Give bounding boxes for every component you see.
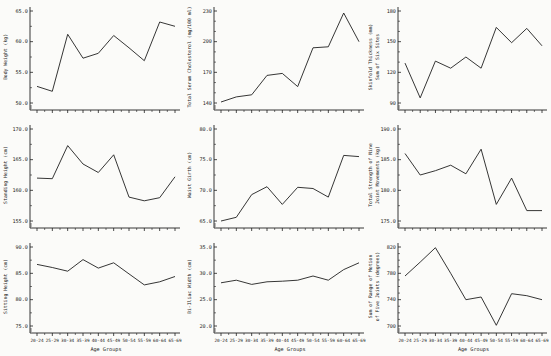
y-tick-label: 65.0 [200, 218, 213, 224]
y-tick-label: 80.0 [200, 126, 213, 132]
y-axis-title: Joint Movements (kg) [375, 146, 381, 204]
y-tick-label: 180.0 [380, 187, 396, 193]
x-tick-label: 40-44 [92, 338, 106, 343]
y-tick-label: 25.0 [200, 296, 213, 302]
y-tick-label: 185.0 [380, 156, 396, 162]
chart-grid-figure: 50.055.060.065.0Body Weight (kg) 1401702… [0, 0, 551, 356]
chart-sitting-height: 75.080.085.090.0Sitting Height (cm)20-24… [0, 236, 184, 356]
chart-canvas: 155.0160.0165.0170.0Standing Height (cm) [0, 118, 184, 236]
y-tick-label: 165.0 [12, 156, 28, 162]
x-tick-label: 20-24 [398, 338, 412, 343]
y-tick-label: 160.0 [12, 187, 28, 193]
y-tick-label: 170 [203, 69, 212, 75]
x-tick-label: 30-34 [245, 338, 259, 343]
y-tick-label: 20.0 [200, 323, 213, 329]
y-tick-label: 230 [203, 8, 212, 14]
x-tick-label: 35-39 [444, 338, 458, 343]
y-tick-label: 30.0 [200, 270, 213, 276]
x-tick-label: 55-59 [138, 338, 152, 343]
y-tick-label: 75.0 [16, 323, 29, 329]
x-tick-label: 65-69 [168, 338, 182, 343]
x-tick-label: 45-49 [107, 338, 121, 343]
y-tick-label: 700 [387, 323, 396, 329]
chart-canvas: 20.025.030.035.0Bi-Iliac Width (cm)20-24… [184, 236, 368, 356]
chart-canvas: 90120150180Skinfold Thickness (mm)Sum of… [368, 0, 551, 118]
x-tick-label: 45-49 [475, 338, 489, 343]
y-axis-title: Body Weight (kg) [3, 34, 9, 80]
y-tick-label: 75.0 [200, 156, 213, 162]
x-tick-label: 30-34 [61, 338, 75, 343]
y-axis-title: Standing Height (cm) [3, 146, 9, 204]
x-axis-title: Age Groups [90, 346, 121, 353]
y-tick-label: 780 [387, 270, 396, 276]
y-axis-title: Total Strength of Nine [368, 143, 374, 207]
y-tick-label: 170.0 [12, 126, 28, 132]
y-axis-title: Sitting Height (cm) [3, 259, 9, 314]
series-line [37, 260, 175, 285]
series-line [221, 263, 359, 285]
chart-total-serum-cholesterol: 140170200230Total Serum Cholesterol (mg/… [184, 0, 368, 118]
chart-canvas: 140170200230Total Serum Cholesterol (mg/… [184, 0, 368, 118]
x-tick-label: 65-69 [535, 338, 549, 343]
x-tick-label: 20-24 [30, 338, 44, 343]
series-line [405, 248, 542, 326]
series-line [37, 22, 175, 91]
chart-canvas: 50.055.060.065.0Body Weight (kg) [0, 0, 184, 118]
y-axis-title: Waist Girth (cm) [187, 152, 192, 198]
chart-total-strength: 175.0180.0185.0190.0Total Strength of Ni… [368, 118, 551, 236]
x-tick-label: 35-39 [260, 338, 274, 343]
chart-skinfold-thickness: 90120150180Skinfold Thickness (mm)Sum of… [368, 0, 551, 118]
series-line [221, 155, 359, 221]
x-tick-label: 25-29 [230, 338, 244, 343]
y-tick-label: 175.0 [380, 218, 396, 224]
y-tick-label: 80.0 [16, 296, 29, 302]
x-tick-label: 45-49 [291, 338, 305, 343]
y-axis-title: Sum of Six Sites [375, 34, 380, 80]
y-tick-label: 90.0 [16, 244, 29, 250]
y-tick-label: 200 [203, 38, 212, 44]
chart-standing-height: 155.0160.0165.0170.0Standing Height (cm) [0, 118, 184, 236]
x-tick-label: 55-59 [322, 338, 336, 343]
chart-bi-iliac-width: 20.025.030.035.0Bi-Iliac Width (cm)20-24… [184, 236, 368, 356]
x-tick-label: 60-64 [520, 338, 534, 343]
chart-canvas: 75.080.085.090.0Sitting Height (cm)20-24… [0, 236, 184, 356]
chart-range-of-motion: 700740780820Sum of Range of Motionof Fiv… [368, 236, 551, 356]
x-tick-label: 50-54 [490, 338, 504, 343]
x-tick-label: 40-44 [276, 338, 290, 343]
y-axis-title: of Five Joints (degrees) [375, 252, 381, 321]
y-axis-title: Bi-Iliac Width (cm) [187, 259, 192, 314]
y-tick-label: 90 [390, 100, 396, 106]
y-tick-label: 65.0 [16, 8, 29, 14]
x-tick-label: 30-34 [429, 338, 443, 343]
chart-canvas: 175.0180.0185.0190.0Total Strength of Ni… [368, 118, 551, 236]
chart-canvas: 700740780820Sum of Range of Motionof Fiv… [368, 236, 551, 356]
y-tick-label: 140 [203, 100, 212, 106]
chart-waist-girth: 65.070.075.080.0Waist Girth (cm) [184, 118, 368, 236]
y-tick-label: 50.0 [16, 100, 29, 106]
y-tick-label: 70.0 [200, 187, 213, 193]
x-tick-label: 25-29 [414, 338, 428, 343]
x-tick-label: 40-44 [459, 338, 473, 343]
y-tick-label: 740 [387, 296, 396, 302]
y-tick-label: 60.0 [16, 38, 29, 44]
y-axis-title: Total Serum Cholesterol (mg/100 ml) [187, 6, 193, 107]
y-tick-label: 150 [387, 38, 396, 44]
x-tick-label: 50-54 [306, 338, 320, 343]
y-axis-title: Skinfold Thickness (mm) [368, 24, 373, 90]
x-tick-label: 35-39 [76, 338, 90, 343]
x-tick-label: 50-54 [122, 338, 136, 343]
series-line [37, 146, 175, 201]
series-line [405, 27, 542, 98]
x-tick-label: 25-29 [46, 338, 60, 343]
series-line [405, 149, 542, 210]
y-tick-label: 155.0 [12, 218, 28, 224]
x-tick-label: 20-24 [214, 338, 228, 343]
x-axis-title: Age Groups [458, 346, 489, 353]
y-tick-label: 190.0 [380, 126, 396, 132]
y-tick-label: 85.0 [16, 270, 29, 276]
series-line [221, 13, 359, 102]
y-tick-label: 180 [387, 8, 396, 14]
y-tick-label: 820 [387, 244, 396, 250]
y-axis-title: Sum of Range of Motion [368, 255, 374, 319]
x-tick-label: 60-64 [153, 338, 167, 343]
